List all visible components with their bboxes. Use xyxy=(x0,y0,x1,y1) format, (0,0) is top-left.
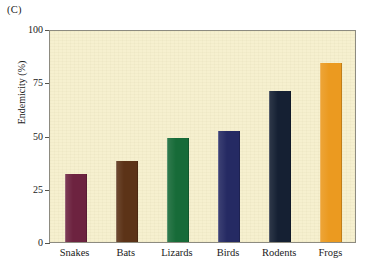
bar-frogs xyxy=(320,63,342,242)
x-tick-label-rodents: Rodents xyxy=(254,247,305,258)
x-tick-label-bats: Bats xyxy=(100,247,151,258)
bar-birds xyxy=(218,131,240,242)
bar-snakes xyxy=(65,174,87,242)
plot-area xyxy=(49,30,356,243)
x-tick-label-lizards: Lizards xyxy=(151,247,202,258)
figure-panel-c: (C) Endemicity (%) 0255075100 SnakesBats… xyxy=(0,0,368,271)
x-tick-label-snakes: Snakes xyxy=(49,247,100,258)
y-tick-mark xyxy=(45,243,50,244)
paper-texture xyxy=(50,31,355,242)
bar-sheen xyxy=(66,174,74,242)
bar-lizards xyxy=(167,138,189,242)
x-tick-label-frogs: Frogs xyxy=(305,247,356,258)
bar-sheen xyxy=(117,161,125,242)
bar-sheen xyxy=(321,63,329,242)
y-tick-label: 75 xyxy=(3,78,43,88)
y-tick-label: 0 xyxy=(3,238,43,248)
y-tick-label: 50 xyxy=(3,132,43,142)
y-tick-label: 25 xyxy=(3,185,43,195)
bar-sheen xyxy=(219,131,227,242)
bar-sheen xyxy=(270,91,278,242)
y-tick-label: 100 xyxy=(3,25,43,35)
x-tick-label-birds: Birds xyxy=(203,247,254,258)
bar-bats xyxy=(116,161,138,242)
bar-sheen xyxy=(168,138,176,242)
bar-rodents xyxy=(269,91,291,242)
